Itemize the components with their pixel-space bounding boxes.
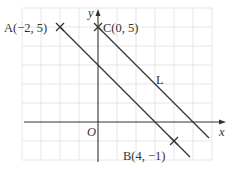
point-B-label: B(4, −1) xyxy=(123,149,165,163)
x-axis-arrow-icon xyxy=(219,120,226,125)
line-L xyxy=(98,27,209,138)
coordinate-diagram: A(−2, 5) C(0, 5) B(4, −1) L y x O xyxy=(0,0,234,169)
line-L-label: L xyxy=(156,73,164,87)
x-axis-label: x xyxy=(218,125,225,139)
origin-label: O xyxy=(87,125,96,139)
point-C-label: C(0, 5) xyxy=(103,21,138,35)
point-A-label: A(−2, 5) xyxy=(4,21,47,35)
y-axis-arrow-icon xyxy=(96,9,101,16)
y-axis-label: y xyxy=(86,6,94,20)
